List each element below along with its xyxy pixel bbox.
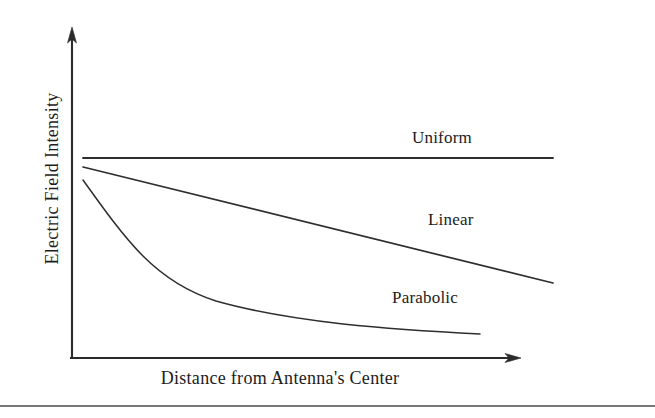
curve-label-linear: Linear	[428, 210, 474, 230]
curve-label-parabolic: Parabolic	[392, 288, 458, 308]
chart-canvas	[0, 0, 655, 418]
x-axis-title: Distance from Antenna's Center	[0, 368, 560, 389]
figure-root: Uniform Linear Parabolic Distance from A…	[0, 0, 655, 418]
curve-label-uniform: Uniform	[412, 128, 472, 148]
y-axis-title: Electric Field Intensity	[42, 49, 63, 309]
curve-parabolic	[83, 180, 480, 334]
